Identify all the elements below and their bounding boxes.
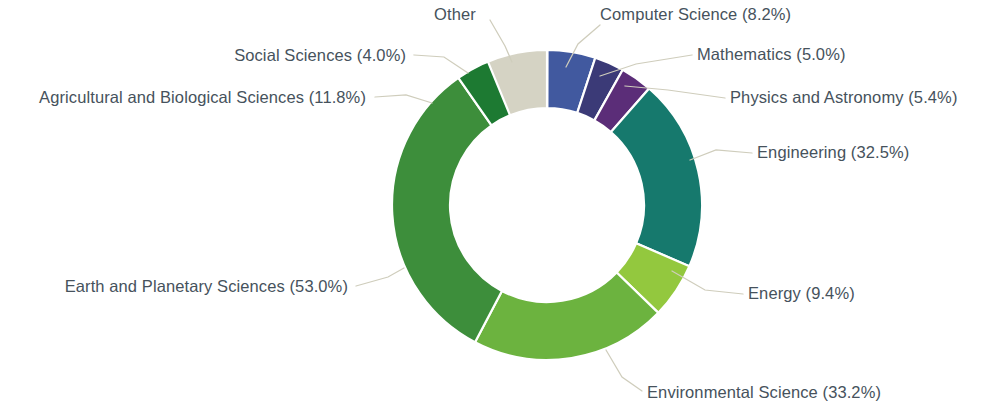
slice-label-earth-and-planetary-sciences: Earth and Planetary Sciences (53.0%): [65, 277, 348, 295]
slice-label-mathematics: Mathematics (5.0%): [697, 45, 846, 63]
leader-line-engineering: [690, 150, 752, 160]
donut-chart-svg: Computer Science (8.2%)Mathematics (5.0%…: [0, 0, 992, 407]
slice-label-other: Other: [434, 5, 476, 23]
leader-line-agricultural-and-biological-sciences: [375, 95, 432, 103]
donut-slice-engineering[interactable]: [611, 88, 702, 266]
leader-line-other: [490, 20, 512, 62]
slice-label-environmental-science: Environmental Science (33.2%): [647, 383, 881, 401]
leader-line-social-sciences: [414, 55, 468, 73]
donut-slices-group: [392, 50, 702, 360]
leader-line-earth-and-planetary-sciences: [356, 268, 404, 286]
slice-label-physics-and-astronomy: Physics and Astronomy (5.4%): [730, 88, 957, 106]
leader-line-environmental-science: [606, 350, 642, 391]
slice-label-engineering: Engineering (32.5%): [757, 143, 909, 161]
slice-label-agricultural-and-biological-sciences: Agricultural and Biological Sciences (11…: [39, 88, 366, 106]
donut-chart-figure: Computer Science (8.2%)Mathematics (5.0%…: [0, 0, 992, 407]
donut-slice-environmental-science[interactable]: [475, 272, 658, 360]
slice-label-energy: Energy (9.4%): [748, 284, 855, 302]
slice-label-computer-science: Computer Science (8.2%): [600, 5, 791, 23]
slice-label-social-sciences: Social Sciences (4.0%): [234, 46, 406, 64]
